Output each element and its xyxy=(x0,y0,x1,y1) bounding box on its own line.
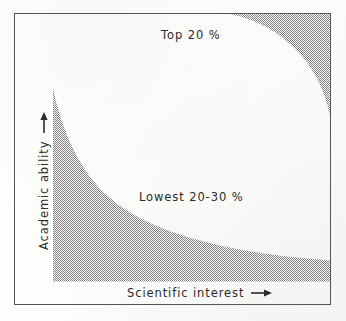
figure-root: Top 20 % Lowest 20-30 % Scientific inter… xyxy=(0,0,346,321)
arrow-up-icon xyxy=(39,111,49,133)
x-axis-title-text: Scientific interest xyxy=(127,286,244,300)
plot-frame-border xyxy=(14,13,331,305)
y-axis-title: Academic ability xyxy=(37,80,51,250)
region-label-lowest-20-30: Lowest 20-30 % xyxy=(139,190,243,204)
x-axis-title: Scientific interest xyxy=(127,286,273,300)
region-label-top-20: Top 20 % xyxy=(161,28,220,42)
arrow-right-icon xyxy=(251,288,273,298)
y-axis-title-text: Academic ability xyxy=(37,141,51,250)
